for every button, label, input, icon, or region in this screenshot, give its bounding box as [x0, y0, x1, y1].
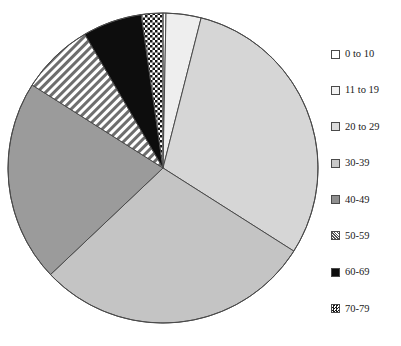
legend-item-label: 0 to 10: [345, 48, 374, 60]
pie-chart-figure: 0 to 1011 to 1920 to 2930-3940-4950-5960…: [0, 0, 401, 346]
legend-swatch-icon: [331, 268, 340, 277]
legend-item-label: 40-49: [345, 194, 370, 206]
legend-swatch-icon: [331, 122, 340, 131]
legend-item[interactable]: 0 to 10: [331, 48, 401, 60]
legend-swatch-icon: [331, 159, 340, 168]
legend-swatch-icon: [331, 50, 340, 59]
legend-item[interactable]: 50-59: [331, 230, 401, 242]
chart-legend: 0 to 1011 to 1920 to 2930-3940-4950-5960…: [331, 48, 401, 339]
legend-item-label: 20 to 29: [345, 121, 379, 133]
legend-item[interactable]: 30-39: [331, 157, 401, 169]
pie-plot-area: [0, 0, 325, 346]
legend-swatch-icon: [331, 304, 340, 313]
pie-svg: [0, 0, 325, 346]
legend-item[interactable]: 20 to 29: [331, 121, 401, 133]
legend-item[interactable]: 11 to 19: [331, 84, 401, 96]
legend-item[interactable]: 70-79: [331, 303, 401, 315]
legend-item-label: 60-69: [345, 266, 370, 278]
legend-item-label: 30-39: [345, 157, 370, 169]
legend-item-label: 50-59: [345, 230, 370, 242]
legend-item-label: 11 to 19: [345, 84, 379, 96]
legend-swatch-icon: [331, 86, 340, 95]
legend-item[interactable]: 40-49: [331, 194, 401, 206]
legend-swatch-icon: [331, 195, 340, 204]
pie-slices-group: [8, 13, 318, 323]
legend-item-label: 70-79: [345, 303, 370, 315]
legend-item[interactable]: 60-69: [331, 266, 401, 278]
legend-swatch-icon: [331, 231, 340, 240]
